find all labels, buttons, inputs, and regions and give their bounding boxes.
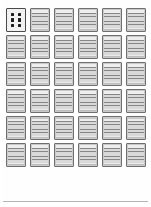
thumbnail-footer-band xyxy=(104,109,120,111)
thumbnail-texture xyxy=(32,37,48,57)
thumbnail-card[interactable] xyxy=(78,8,98,32)
thumbnail-texture xyxy=(80,37,96,57)
thumbnail-card[interactable] xyxy=(126,62,146,86)
thumbnail-card[interactable] xyxy=(126,35,146,59)
thumbnail-texture xyxy=(128,37,144,57)
thumbnail-footer-band xyxy=(128,55,144,57)
thumbnail-texture xyxy=(8,118,24,138)
thumbnail-header-band xyxy=(32,10,48,13)
page-left-edge xyxy=(0,0,2,207)
thumbnail-card[interactable] xyxy=(6,116,26,140)
thumbnail-header-band xyxy=(8,91,24,94)
thumbnail-header-band xyxy=(104,64,120,67)
thumbnail-card[interactable] xyxy=(102,62,122,86)
thumbnail-texture xyxy=(104,145,120,165)
thumbnail-card[interactable] xyxy=(6,62,26,86)
thumbnail-card[interactable] xyxy=(78,116,98,140)
dot-mark xyxy=(18,13,21,16)
thumbnail-card[interactable] xyxy=(102,143,122,167)
thumbnail-card[interactable] xyxy=(54,143,74,167)
thumbnail-header-band xyxy=(80,91,96,94)
thumbnail-header-band xyxy=(32,37,48,40)
thumbnail-card[interactable] xyxy=(78,143,98,167)
thumbnail-texture xyxy=(56,91,72,111)
thumbnail-card-dots[interactable] xyxy=(6,8,26,32)
thumbnail-texture xyxy=(56,37,72,57)
thumbnail-footer-band xyxy=(8,82,24,84)
thumbnail-texture xyxy=(56,145,72,165)
thumbnail-footer-band xyxy=(56,109,72,111)
thumbnail-card[interactable] xyxy=(126,143,146,167)
thumbnail-footer-band xyxy=(104,82,120,84)
thumbnail-header-band xyxy=(8,64,24,67)
thumbnail-grid xyxy=(6,8,146,167)
thumbnail-texture xyxy=(80,145,96,165)
thumbnail-footer-band xyxy=(80,163,96,165)
thumbnail-card[interactable] xyxy=(6,89,26,113)
thumbnail-texture xyxy=(128,118,144,138)
thumbnail-card[interactable] xyxy=(54,35,74,59)
thumbnail-card[interactable] xyxy=(102,35,122,59)
thumbnail-texture xyxy=(8,37,24,57)
thumbnail-card[interactable] xyxy=(126,116,146,140)
thumbnail-texture xyxy=(104,37,120,57)
thumbnail-card[interactable] xyxy=(54,62,74,86)
dot-mark xyxy=(11,18,14,21)
thumbnail-card[interactable] xyxy=(54,8,74,32)
thumbnail-footer-band xyxy=(32,28,48,30)
thumbnail-header-band xyxy=(32,64,48,67)
thumbnail-card[interactable] xyxy=(78,62,98,86)
thumbnail-footer-band xyxy=(56,163,72,165)
thumbnail-card[interactable] xyxy=(6,35,26,59)
thumbnail-footer-band xyxy=(80,28,96,30)
thumbnail-header-band xyxy=(56,64,72,67)
dot-mark xyxy=(18,24,21,27)
thumbnail-card[interactable] xyxy=(54,89,74,113)
thumbnail-header-band xyxy=(128,118,144,121)
thumbnail-footer-band xyxy=(128,163,144,165)
thumbnail-texture xyxy=(80,10,96,30)
thumbnail-header-band xyxy=(8,118,24,121)
thumbnail-card[interactable] xyxy=(30,89,50,113)
thumbnail-card[interactable] xyxy=(30,62,50,86)
thumbnail-card[interactable] xyxy=(126,89,146,113)
thumbnail-card[interactable] xyxy=(102,116,122,140)
thumbnail-footer-band xyxy=(80,55,96,57)
thumbnail-card[interactable] xyxy=(78,35,98,59)
thumbnail-texture xyxy=(80,64,96,84)
thumbnail-card[interactable] xyxy=(126,8,146,32)
thumbnail-footer-band xyxy=(104,55,120,57)
thumbnail-card[interactable] xyxy=(102,8,122,32)
thumbnail-texture xyxy=(128,10,144,30)
thumbnail-card[interactable] xyxy=(102,89,122,113)
thumbnail-card[interactable] xyxy=(54,116,74,140)
thumbnail-footer-band xyxy=(128,82,144,84)
thumbnail-card[interactable] xyxy=(30,116,50,140)
thumbnail-texture xyxy=(56,10,72,30)
dot-pattern xyxy=(10,12,23,28)
thumbnail-card[interactable] xyxy=(30,8,50,32)
thumbnail-texture xyxy=(32,118,48,138)
thumbnail-footer-band xyxy=(56,55,72,57)
thumbnail-card[interactable] xyxy=(30,143,50,167)
thumbnail-header-band xyxy=(128,91,144,94)
thumbnail-header-band xyxy=(32,145,48,148)
thumbnail-footer-band xyxy=(32,136,48,138)
thumbnail-texture xyxy=(56,118,72,138)
thumbnail-header-band xyxy=(56,118,72,121)
thumbnail-texture xyxy=(56,64,72,84)
thumbnail-texture xyxy=(104,91,120,111)
thumbnail-header-band xyxy=(8,145,24,148)
thumbnail-header-band xyxy=(80,10,96,13)
thumbnail-header-band xyxy=(32,118,48,121)
thumbnail-header-band xyxy=(80,145,96,148)
thumbnail-header-band xyxy=(80,64,96,67)
dot-mark xyxy=(18,18,21,21)
thumbnail-header-band xyxy=(104,118,120,121)
thumbnail-card[interactable] xyxy=(78,89,98,113)
thumbnail-card[interactable] xyxy=(6,143,26,167)
thumbnail-card[interactable] xyxy=(30,35,50,59)
thumbnail-footer-band xyxy=(56,28,72,30)
thumbnail-footer-band xyxy=(8,163,24,165)
thumbnail-texture xyxy=(80,118,96,138)
